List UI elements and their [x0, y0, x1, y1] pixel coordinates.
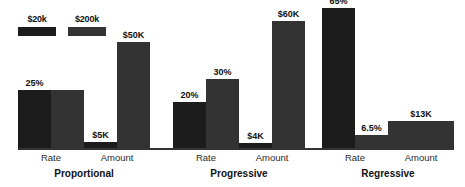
bar-value-label: $4K [247, 130, 264, 142]
bar-value-label: 25% [25, 77, 43, 89]
x-axis-baseline [18, 148, 454, 150]
chart-bar: $13K [388, 121, 454, 149]
chart-bar: 30% [206, 79, 239, 149]
x-axis-tick-label: Rate [41, 152, 61, 163]
x-axis-tick-label: Amount [256, 152, 289, 163]
bar-group-title: Regressive [361, 168, 414, 179]
chart-bar: $60K [272, 21, 305, 149]
bar-value-label: 30% [213, 66, 231, 78]
chart-bar [51, 90, 84, 149]
bar-value-label: 65% [329, 0, 347, 7]
bar-value-label: $50K [123, 29, 145, 41]
bar-group-title: Proportional [54, 168, 113, 179]
chart-bar: 6.5% [355, 135, 388, 149]
x-axis-tick-label: Rate [345, 152, 365, 163]
x-axis-tick-label: Amount [405, 152, 438, 163]
x-axis-tick-label: Amount [101, 152, 134, 163]
x-axis-tick-label: Rate [196, 152, 216, 163]
chart-plot-area: 25%$5K$50K20%30%$4K$60K65%6.5%$13K [0, 0, 465, 149]
chart-bar: 65% [322, 8, 355, 149]
tax-comparison-bar-chart: $20k$200k 25%$5K$50K20%30%$4K$60K65%6.5%… [0, 0, 465, 187]
bar-group-title: Progressive [210, 168, 267, 179]
bar-value-label: 6.5% [361, 122, 382, 134]
bar-value-label: 20% [180, 89, 198, 101]
bar-value-label: $60K [278, 8, 300, 20]
bar-value-label: $13K [410, 108, 432, 120]
chart-bar: 25% [18, 90, 51, 149]
chart-bar: 20% [173, 102, 206, 149]
bar-value-label: $5K [92, 129, 109, 141]
chart-bar: $50K [117, 42, 150, 149]
